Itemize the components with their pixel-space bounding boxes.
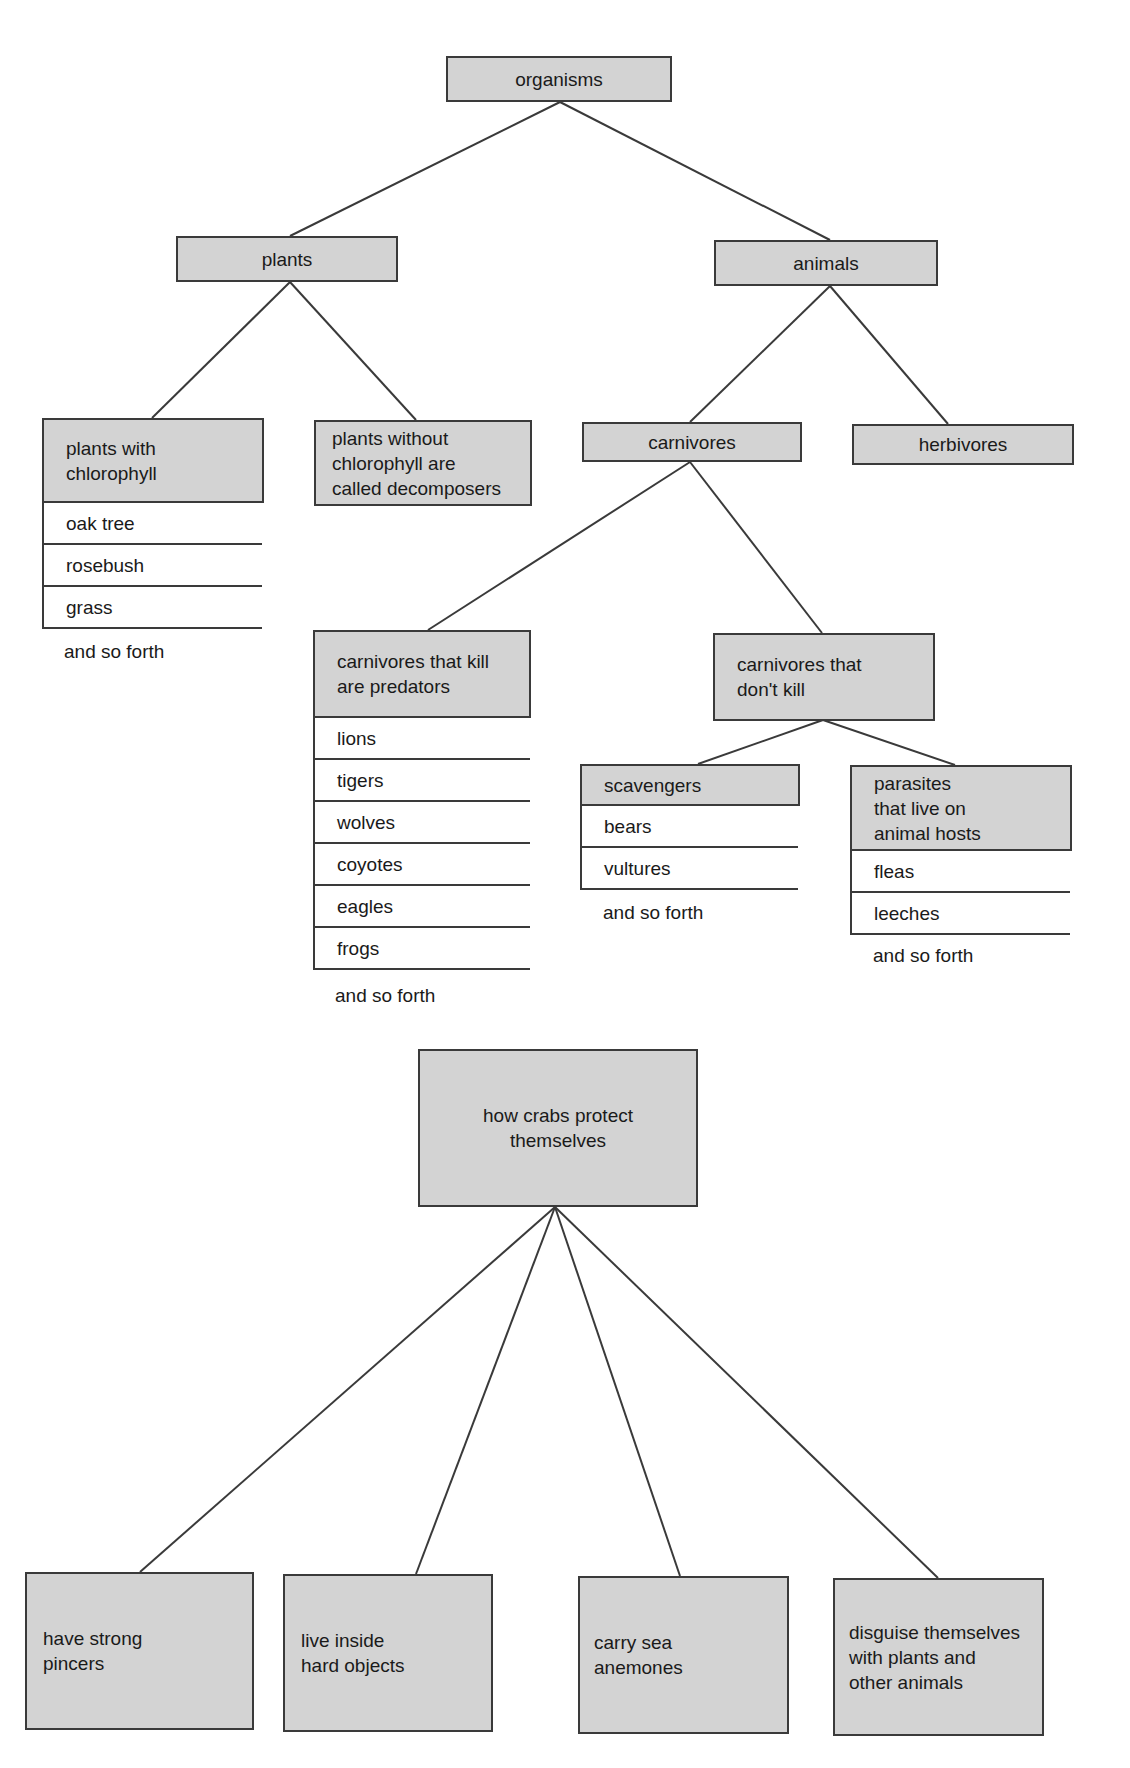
list-item: oak tree <box>44 503 262 545</box>
node-label-line: have strong <box>43 1626 252 1651</box>
list-item: rosebush <box>44 545 262 587</box>
node-label-line: anemones <box>594 1655 787 1680</box>
node-label-line: parasites <box>874 771 1070 796</box>
node-label-line: carnivores that <box>737 652 933 677</box>
node-label-line: hard objects <box>301 1653 491 1678</box>
node-label-line: chlorophyll <box>66 461 262 486</box>
list-item: leeches <box>852 893 1070 935</box>
and-so-forth: and so forth <box>64 641 164 663</box>
node-scavengers: scavengers <box>580 764 800 806</box>
node-hard-objects: live inside hard objects <box>283 1574 493 1732</box>
node-parasites: parasites that live on animal hosts <box>850 765 1072 851</box>
list-item: grass <box>44 587 262 629</box>
list-plants-with-chlorophyll: oak tree rosebush grass <box>42 503 262 629</box>
node-label-line: pincers <box>43 1651 252 1676</box>
node-label-line: carry sea <box>594 1630 787 1655</box>
node-predators: carnivores that kill are predators <box>313 630 531 718</box>
node-label-line: disguise themselves <box>849 1620 1042 1645</box>
node-label: organisms <box>515 67 603 92</box>
list-item: tigers <box>315 760 530 802</box>
list-scavengers: bears vultures <box>580 806 798 890</box>
node-label: plants <box>262 247 313 272</box>
list-item: frogs <box>315 928 530 970</box>
node-label-line: live inside <box>301 1628 491 1653</box>
list-predators: lions tigers wolves coyotes eagles frogs <box>313 718 530 970</box>
node-label: scavengers <box>604 773 798 798</box>
list-parasites: fleas leeches <box>850 851 1070 935</box>
and-so-forth: and so forth <box>603 902 703 924</box>
node-label-line: other animals <box>849 1670 1042 1695</box>
node-crabs-protect: how crabs protect themselves <box>418 1049 698 1207</box>
node-strong-pincers: have strong pincers <box>25 1572 254 1730</box>
node-label-line: carnivores that kill <box>337 649 529 674</box>
node-label-line: are predators <box>337 674 529 699</box>
list-item: wolves <box>315 802 530 844</box>
and-so-forth: and so forth <box>873 945 973 967</box>
node-label: herbivores <box>919 432 1008 457</box>
node-label-line: with plants and <box>849 1645 1042 1670</box>
node-non-killers: carnivores that don't kill <box>713 633 935 721</box>
list-item: vultures <box>582 848 798 890</box>
node-label-line: called decomposers <box>332 476 530 501</box>
node-label-line: plants without <box>332 426 530 451</box>
node-label-line: themselves <box>510 1128 606 1153</box>
node-label-line: plants with <box>66 436 262 461</box>
node-organisms: organisms <box>446 56 672 102</box>
list-item: lions <box>315 718 530 760</box>
node-label-line: how crabs protect <box>483 1103 633 1128</box>
node-label: carnivores <box>648 430 736 455</box>
node-herbivores: herbivores <box>852 424 1074 465</box>
node-sea-anemones: carry sea anemones <box>578 1576 789 1734</box>
node-carnivores: carnivores <box>582 422 802 462</box>
node-label-line: chlorophyll are <box>332 451 530 476</box>
node-plants-with-chlorophyll: plants with chlorophyll <box>42 418 264 503</box>
node-label-line: don't kill <box>737 677 933 702</box>
node-disguise: disguise themselves with plants and othe… <box>833 1578 1044 1736</box>
list-item: bears <box>582 806 798 848</box>
node-plants-without-chlorophyll: plants without chlorophyll are called de… <box>314 420 532 506</box>
list-item: fleas <box>852 851 1070 893</box>
node-label-line: that live on <box>874 796 1070 821</box>
and-so-forth: and so forth <box>335 985 435 1007</box>
node-label: animals <box>793 251 858 276</box>
list-item: coyotes <box>315 844 530 886</box>
node-label-line: animal hosts <box>874 821 1070 846</box>
node-animals: animals <box>714 240 938 286</box>
node-plants: plants <box>176 236 398 282</box>
list-item: eagles <box>315 886 530 928</box>
